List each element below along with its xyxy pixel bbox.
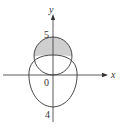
polar-diagram: x y 5 0 4 bbox=[0, 0, 127, 130]
tick-label-bottom: 4 bbox=[45, 109, 50, 120]
origin-label: 0 bbox=[44, 77, 49, 88]
x-axis-label: x bbox=[110, 69, 116, 80]
y-axis-label: y bbox=[48, 4, 54, 15]
x-axis-arrow-icon bbox=[102, 73, 108, 77]
tick-label-top: 5 bbox=[44, 29, 49, 40]
shaded-region bbox=[20, 30, 90, 62]
